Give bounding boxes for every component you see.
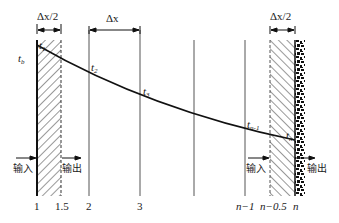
temp-label-boundary: tb (18, 53, 25, 66)
node-label-n: n (293, 201, 299, 212)
node-label-n-1: n−1 (236, 201, 254, 212)
flow-in-left-label: 输入 (13, 164, 33, 174)
temp-label-t1: t1 (39, 40, 46, 53)
flow-out-right-label: 输出 (307, 164, 327, 174)
flow-out-left-label: 输出 (62, 164, 82, 174)
node-label-1: 1 (34, 201, 40, 212)
node-label-2: 2 (86, 201, 92, 212)
dimension-arrows (37, 24, 295, 34)
cell-width-label: Δx (106, 13, 119, 24)
node-label-3: 3 (137, 201, 143, 212)
temp-label-tn-1: tn-1 (247, 119, 259, 132)
right-half-cell (270, 40, 305, 196)
node-label-1-5: 1.5 (55, 201, 69, 212)
half-cell-width-label-left: Δx/2 (37, 11, 58, 22)
temp-label-t3: t3 (143, 86, 150, 99)
node-lines (89, 30, 245, 196)
temp-label-t2: t2 (91, 62, 98, 75)
diagram-graphics (0, 0, 339, 223)
flow-in-right-label: 输入 (246, 164, 266, 174)
temp-label-tn: tn (286, 130, 293, 143)
left-half-cell (37, 40, 61, 196)
node-label-n-0-5: n−0.5 (260, 201, 287, 212)
half-cell-width-label-right: Δx/2 (270, 11, 291, 22)
finite-difference-diagram: Δx/2 Δx Δx/2 tb t1 t2 t3 tn-1 tn 输入 输出 输… (0, 0, 339, 223)
